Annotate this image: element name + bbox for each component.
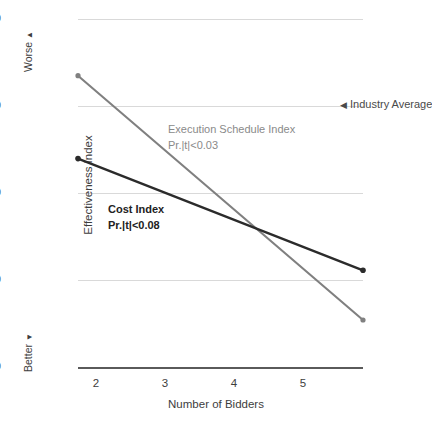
chart-container: 1.10 1.00 0.90 0.80 0.70 2 3 4 5 Effecti…	[0, 0, 432, 425]
execution-schedule-index-line	[78, 76, 363, 320]
better-direction-marker: Better ▼	[22, 333, 34, 372]
execution-point-5	[360, 317, 365, 322]
down-triangle-icon: ▼	[25, 333, 34, 341]
better-label: Better	[22, 344, 34, 372]
execution-schedule-index-label: Execution Schedule Index	[168, 122, 295, 138]
left-triangle-icon: ◀	[340, 100, 347, 110]
cost-point-5	[360, 267, 366, 273]
execution-point-2	[75, 73, 80, 78]
industry-average-label: Industry Average	[350, 98, 432, 110]
cost-point-2	[75, 156, 81, 162]
worse-label: Worse	[22, 42, 34, 72]
cost-index-label: Cost Index	[108, 202, 164, 218]
series-layer	[0, 0, 432, 425]
execution-schedule-index-annotation: Execution Schedule Index Pr.|t|<0.03	[168, 122, 295, 154]
industry-average-callout: ◀Industry Average	[340, 98, 432, 110]
x-axis-title: Number of Bidders	[0, 398, 432, 410]
series-execution-schedule-index	[75, 73, 365, 323]
cost-index-pvalue: Pr.|t|<0.08	[108, 218, 164, 234]
worse-direction-marker: Worse ▲	[22, 31, 34, 72]
up-triangle-icon: ▲	[25, 31, 34, 39]
execution-schedule-index-pvalue: Pr.|t|<0.03	[168, 138, 295, 154]
cost-index-annotation: Cost Index Pr.|t|<0.08	[108, 202, 164, 234]
